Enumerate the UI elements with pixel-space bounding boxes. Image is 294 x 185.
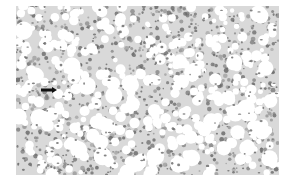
arrow-annotation-icon	[0, 0, 294, 185]
